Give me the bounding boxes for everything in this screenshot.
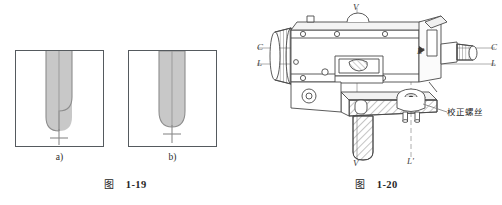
panel-b-drawing <box>129 51 215 145</box>
figure-1-20-caption: 图1-20 <box>251 176 502 191</box>
axis-label-V-bottom: V <box>353 158 359 168</box>
eyepiece-collar <box>441 42 457 64</box>
axis-label-L-right: L <box>491 58 496 68</box>
barrel-screw-5 <box>322 69 328 75</box>
vertical-stem-section <box>353 116 373 160</box>
stem-collar <box>355 100 367 114</box>
sight-block <box>307 16 314 22</box>
barrel-screw-2 <box>334 31 339 36</box>
bracket-eye-inner <box>306 93 312 99</box>
barrel-screw-4 <box>300 75 305 80</box>
axis-label-C-right: C <box>491 42 497 52</box>
axis-label-V-top: V <box>353 2 359 12</box>
barrel-top-face <box>291 22 425 30</box>
eyepiece-inner-slot <box>427 30 437 56</box>
axis-label-L-prime-upper: L' <box>417 46 424 56</box>
vial-mount-plate <box>335 76 383 83</box>
figure-1-19-sublabel-b: b) <box>128 152 217 162</box>
boss-link <box>429 82 437 92</box>
adjusting-screw-tip-1 <box>403 120 408 123</box>
objective-lens-face <box>270 32 280 80</box>
axis-label-L-prime-lower: L' <box>407 156 414 166</box>
figure-1-20: C L C L V V L' L' 校正螺丝 图1-20 <box>251 0 502 205</box>
figure-1-19-caption: 图1-19 <box>0 176 251 191</box>
figure-1-19-caption-cjk: 图 <box>104 179 115 190</box>
textbook-figure-page: a) b) 图1-19 <box>0 0 502 205</box>
figure-1-19-caption-number: 1-19 <box>126 179 147 190</box>
figure-1-19-panel-b <box>128 50 217 147</box>
vertical-axis-dome <box>347 13 369 22</box>
figure-1-20-caption-cjk: 图 <box>355 179 366 190</box>
axis-label-L-left: L <box>257 58 262 68</box>
barrel-screw-1 <box>300 31 305 36</box>
axis-label-C-left: C <box>257 42 263 52</box>
figure-1-20-drawing <box>251 0 502 175</box>
barrel-screw-3 <box>382 31 387 36</box>
eyepiece-lens <box>469 46 477 60</box>
figure-1-19-sublabel-a: a) <box>15 152 104 162</box>
panel-a-drawing <box>16 51 102 145</box>
callout-adjusting-screw: 校正螺丝 <box>447 105 483 117</box>
adjusting-screw-tip-2 <box>415 120 420 123</box>
barrel-screw-7 <box>294 60 299 65</box>
figure-1-19-panel-a <box>15 50 104 147</box>
adjusting-screw-boss-body <box>397 97 425 112</box>
figure-1-20-caption-number: 1-20 <box>377 179 398 190</box>
figure-1-19: a) b) 图1-19 <box>0 0 251 205</box>
